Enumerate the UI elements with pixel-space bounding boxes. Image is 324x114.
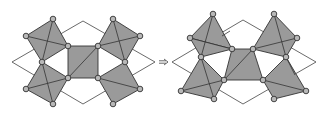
atom-node [50,16,56,22]
polyhedron [181,57,224,99]
atom-node [210,11,216,17]
polyhedron [224,49,263,80]
atom-node [271,11,277,17]
atom-node [187,35,193,41]
atom-node [198,54,204,60]
atom-node [65,43,71,49]
atom-node [95,43,101,49]
atom-node [271,96,277,102]
atom-node [110,16,116,22]
atom-node [178,88,184,94]
polyhedron [253,14,297,57]
atom-node [250,46,256,52]
polyhedron [26,62,68,104]
atom-node [221,77,227,83]
arrow-head-icon [164,59,168,65]
atom-node [137,86,143,92]
atom-node [65,75,71,81]
atom-node [23,33,29,39]
polyhedron [26,19,68,62]
atom-node [110,101,116,107]
atom-node [211,96,217,102]
atom-node [229,46,235,52]
atom-node [23,86,29,92]
atom-node [137,33,143,39]
polyhedron [98,62,140,104]
atom-node [303,88,309,94]
atom-node [283,54,289,60]
atom-node [95,75,101,81]
atom-node [260,77,266,83]
diagram-canvas [0,0,324,114]
atom-node [122,59,128,65]
atom-node [50,101,56,107]
atom-node [294,35,300,41]
atom-node [39,59,45,65]
polyhedron [263,57,306,99]
